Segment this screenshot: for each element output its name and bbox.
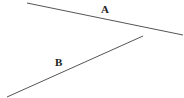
label-a: A <box>101 3 109 15</box>
lines-svg: A B <box>0 0 184 98</box>
diagram-canvas: A B <box>0 0 184 98</box>
line-b <box>7 36 143 97</box>
label-b: B <box>55 56 63 68</box>
